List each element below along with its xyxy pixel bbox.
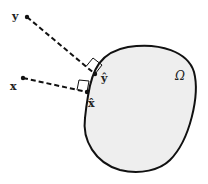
point-y — [25, 15, 29, 19]
label-x: x — [10, 80, 17, 93]
projection-diagram: y x ŷ x̂ Ω — [0, 0, 208, 184]
dashed-line-y-to-yhat — [27, 17, 95, 74]
label-y-hat: ŷ — [100, 72, 108, 85]
point-x — [21, 76, 25, 80]
point-x-hat — [85, 90, 89, 94]
label-x-hat: x̂ — [88, 97, 95, 110]
label-y: y — [11, 10, 19, 23]
point-y-hat — [93, 72, 97, 76]
label-omega: Ω — [174, 69, 185, 83]
